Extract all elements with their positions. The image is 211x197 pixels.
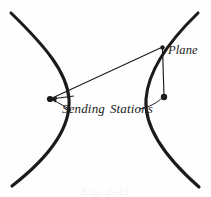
sending-stations-label-word-1: Sending	[62, 101, 105, 116]
hyperbola-diagram-canvas	[0, 0, 211, 197]
figure-container: SendingStations Plane Fig. 2-11	[0, 0, 211, 197]
sending-stations-label-word-2: Stations	[110, 101, 153, 116]
sending-stations-label: SendingStations	[62, 102, 153, 115]
plane-label: Plane	[168, 44, 198, 57]
figure-caption: Fig. 2-11	[0, 186, 211, 197]
right-hyperbola-branch	[146, 13, 199, 187]
left-sending-station-dot	[47, 96, 53, 102]
right-sending-station-dot	[161, 94, 167, 100]
left-hyperbola-branch	[11, 13, 69, 186]
plane-point-dot	[160, 45, 164, 49]
